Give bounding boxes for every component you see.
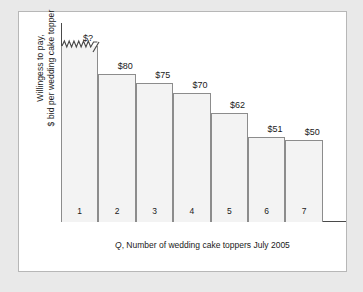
bar-value-label-1: $? [69,33,106,43]
bar-5[interactable]: 5 [211,113,248,222]
plot-area: 1 2 3 4 5 6 7 $? $80 $75 $70 $62 $51 $50 [61,23,346,223]
bar-7[interactable]: 7 [285,140,322,222]
figure-frame: Willingess to pay, $ bid per wedding cak… [18,11,347,272]
bar-2[interactable]: 2 [98,74,135,222]
y-axis-label-line-2: $ bid per wedding cake topper [46,10,57,127]
bar-number-1: 1 [62,206,97,216]
x-axis-label-text: , Number of wedding cake toppers July 20… [122,240,290,250]
y-axis-label-line-1: Willingess to pay, [35,34,46,101]
bar-value-label-2: $80 [107,61,144,71]
x-axis-label: Q, Number of wedding cake toppers July 2… [115,240,290,250]
y-axis-label: Willingess to pay, $ bid per wedding cak… [28,0,64,138]
x-axis-label-quantity-symbol: Q [115,240,122,250]
bar-number-2: 2 [99,206,134,216]
bar-number-4: 4 [174,206,209,216]
bar-3[interactable]: 3 [136,83,173,222]
bar-value-label-5: $62 [219,100,256,110]
bar-4[interactable]: 4 [173,93,210,222]
bar-6[interactable]: 6 [248,137,285,222]
bar-value-label-3: $75 [144,70,181,80]
bar-value-label-6: $51 [256,124,293,134]
bar-number-6: 6 [249,206,284,216]
bar-number-7: 7 [286,206,321,216]
bar-value-label-4: $70 [181,80,218,90]
bar-1[interactable]: 1 [61,46,98,222]
bar-value-label-7: $50 [294,127,331,137]
bar-number-5: 5 [212,206,247,216]
bar-number-3: 3 [137,206,172,216]
